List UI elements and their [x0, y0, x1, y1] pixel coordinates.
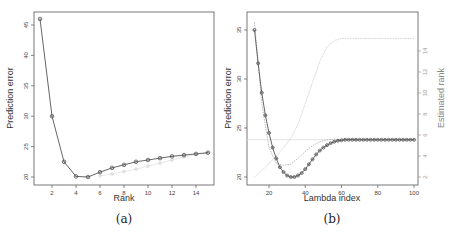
y2-tick-label: 6	[422, 133, 428, 137]
series-a	[38, 17, 210, 179]
figure: 2468101214 202530354045 Rank Prediction …	[0, 0, 452, 238]
series-line	[255, 38, 415, 177]
y2-tick-label: 2	[422, 175, 428, 179]
series-line	[100, 153, 208, 176]
y-tick-label: 30	[23, 112, 29, 119]
y-tick-label: 25	[236, 124, 242, 131]
x-tick-label: 14	[193, 190, 200, 196]
y2-axis-title-b: Estimated rank	[436, 67, 446, 128]
y-tick-label: 35	[236, 26, 242, 33]
y-axis-a: 202530354045	[23, 21, 34, 180]
y-axis-title-b: Prediction error	[223, 67, 233, 129]
panel-a: 2468101214 202530354045 Rank Prediction …	[5, 12, 214, 226]
x-tick-label: 2	[50, 190, 54, 196]
y-tick-label: 20	[236, 173, 242, 180]
x-tick-label: 100	[409, 190, 420, 196]
x-axis-title-a: Rank	[113, 193, 135, 203]
plot-frame-a	[34, 12, 214, 185]
caption-b: (b)	[323, 212, 340, 226]
series-b	[247, 22, 418, 178]
x-tick-label: 80	[374, 190, 381, 196]
y2-tick-label: 4	[422, 154, 428, 158]
x-tick-label: 6	[98, 190, 102, 196]
x-tick-label: 12	[169, 190, 176, 196]
y2-tick-label: 10	[422, 89, 428, 96]
y-tick-label: 25	[23, 143, 29, 150]
series-line	[255, 22, 357, 165]
caption-a: (a)	[116, 212, 133, 226]
x-tick-label: 10	[145, 190, 152, 196]
y-tick-label: 35	[23, 82, 29, 89]
y-tick-label: 40	[23, 51, 29, 58]
y-axis-b: 20253035	[236, 26, 247, 180]
panel-b: 20406080100 20253035 2468101214 Lambda i…	[223, 12, 446, 226]
y2-tick-label: 8	[422, 112, 428, 116]
y2-tick-label: 14	[422, 47, 428, 54]
y2-axis-b: 2468101214	[418, 47, 428, 179]
y2-tick-label: 12	[422, 68, 428, 75]
x-tick-label: 4	[74, 190, 78, 196]
y-tick-label: 45	[23, 21, 29, 28]
series-line	[255, 30, 415, 177]
y-axis-title-a: Prediction error	[5, 67, 15, 129]
x-axis-title-b: Lambda index	[304, 193, 361, 203]
y-tick-label: 30	[236, 75, 242, 82]
y-tick-label: 20	[23, 173, 29, 180]
x-tick-label: 20	[266, 190, 273, 196]
